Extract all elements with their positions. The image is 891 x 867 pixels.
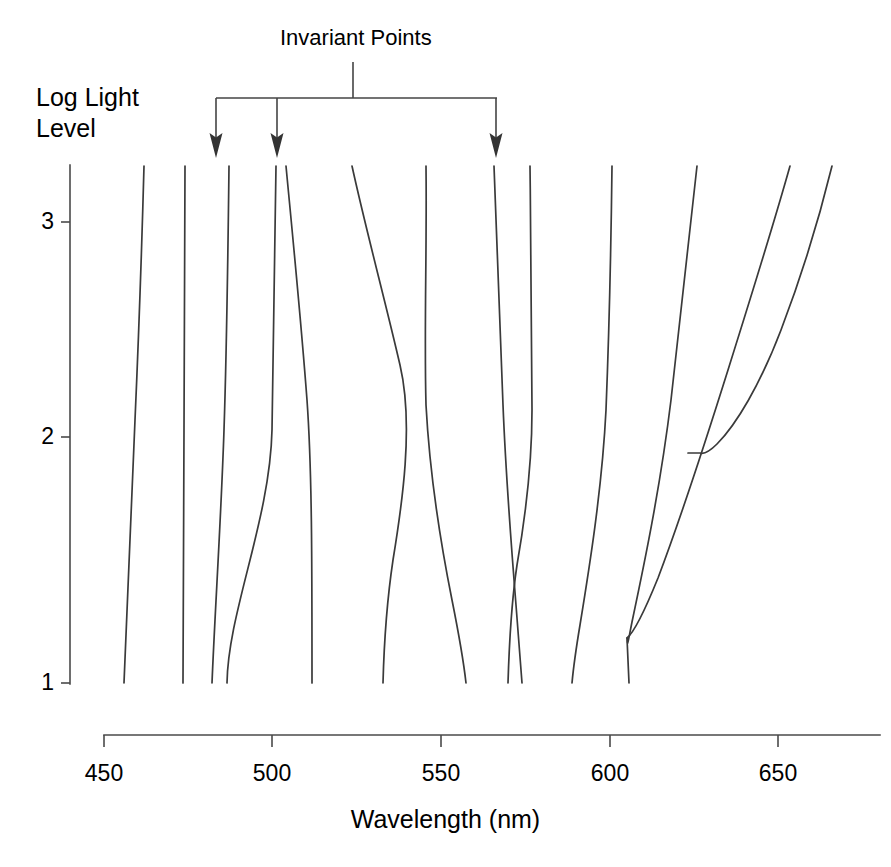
data-curve-9: [508, 166, 532, 683]
y-axis: [61, 165, 70, 684]
x-axis-title: Wavelength (nm): [0, 805, 891, 834]
invariant-points-annotation: [210, 62, 503, 158]
data-curve-8: [494, 166, 522, 683]
y-tick-label-2: 2: [32, 423, 54, 450]
x-tick-label-650: 650: [748, 760, 808, 787]
invariant-arrow-3: [490, 123, 503, 158]
x-axis: [104, 735, 880, 747]
data-curve-7: [425, 166, 466, 683]
y-tick-label-1: 1: [32, 669, 54, 696]
data-curve-11: [627, 166, 697, 683]
y-axis-title-line2: Level: [36, 113, 139, 144]
invariant-arrow-1: [210, 123, 223, 158]
data-curve-2: [183, 166, 185, 683]
data-curve-6: [352, 166, 406, 683]
curve-group: [124, 166, 832, 683]
x-tick-label-600: 600: [580, 760, 640, 787]
y-axis-title: Log Light Level: [36, 82, 139, 143]
data-curve-4: [227, 166, 276, 683]
chart-figure: Log Light Level Invariant Points 3 2 1 4…: [0, 0, 891, 867]
x-tick-label-550: 550: [411, 760, 471, 787]
data-curve-1: [124, 166, 144, 683]
data-curve-5: [286, 166, 312, 683]
x-tick-label-450: 450: [74, 760, 134, 787]
invariant-points-label: Invariant Points: [280, 25, 432, 51]
x-tick-label-500: 500: [242, 760, 302, 787]
data-curve-13-hook: [688, 166, 832, 453]
data-curve-10: [572, 166, 612, 683]
y-tick-label-3: 3: [32, 208, 54, 235]
invariant-arrow-2: [271, 123, 284, 158]
y-axis-title-line1: Log Light: [36, 82, 139, 113]
data-curve-3: [212, 166, 229, 683]
data-curve-12: [627, 166, 790, 638]
